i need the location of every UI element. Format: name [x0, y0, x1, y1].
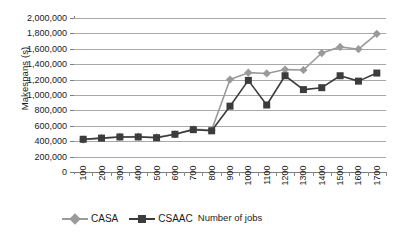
data-point-marker-diamond	[336, 43, 344, 51]
data-point-marker-diamond	[263, 69, 271, 77]
y-axis-tick-labels: 0200,000400,000600,000800,0001,000,0001,…	[0, 14, 67, 172]
x-axis-tick-label: 1100	[262, 166, 271, 200]
legend-item-casa[interactable]: CASA	[62, 213, 118, 224]
x-axis-tick-mark	[221, 172, 222, 176]
y-axis-tick-mark	[70, 126, 74, 127]
y-axis-tick-mark	[70, 110, 74, 111]
data-point-marker-square	[318, 84, 325, 91]
data-point-marker-square	[190, 126, 197, 133]
y-axis-tick-label: 1,800,000	[0, 29, 67, 38]
data-point-marker-square	[153, 134, 160, 141]
legend-marker-square	[138, 215, 146, 223]
data-point-marker-square	[245, 77, 252, 84]
data-point-marker-square	[282, 72, 289, 79]
legend-label: CASA	[91, 214, 118, 224]
x-axis-tick-label: 1200	[281, 166, 290, 200]
y-axis-tick-mark	[70, 64, 74, 65]
chart-legend: CASACSAAC	[62, 213, 193, 224]
data-point-marker-square	[98, 135, 105, 142]
x-axis-tick-label: 300	[115, 166, 124, 200]
data-point-marker-square	[208, 127, 215, 134]
x-axis-tick-label: 100	[79, 166, 88, 200]
legend-swatch	[129, 213, 155, 224]
data-point-marker-diamond	[244, 69, 252, 77]
x-axis-tick-label: 1300	[299, 166, 308, 200]
x-axis-tick-mark	[166, 172, 167, 176]
x-axis-tick-mark	[294, 172, 295, 176]
data-point-marker-square	[337, 72, 344, 79]
y-axis-tick-label: 200,000	[0, 152, 67, 161]
data-point-marker-square	[227, 103, 234, 110]
legend-label: CSAAC	[158, 214, 192, 224]
y-axis-tick-mark	[70, 80, 74, 81]
y-axis-tick-mark	[70, 95, 74, 96]
chart-container: Makespans (s) 0200,000400,000600,000800,…	[0, 0, 394, 237]
y-axis-tick-label: 800,000	[0, 106, 67, 115]
x-axis-tick-mark	[92, 172, 93, 176]
y-axis-tick-label: 1,400,000	[0, 60, 67, 69]
data-point-marker-square	[135, 133, 142, 140]
x-axis-tick-label: 1600	[354, 166, 363, 200]
x-axis-tick-label: 600	[170, 166, 179, 200]
x-axis-tick-mark	[276, 172, 277, 176]
y-axis-tick-label: 0	[0, 168, 67, 177]
y-axis-tick-mark	[70, 141, 74, 142]
x-axis-tick-mark	[184, 172, 185, 176]
y-axis-tick-mark	[70, 18, 74, 19]
x-axis-tick-label: 900	[226, 166, 235, 200]
x-axis-tick-label: 400	[134, 166, 143, 200]
x-axis-tick-label: 500	[152, 166, 161, 200]
y-axis-tick-mark	[70, 49, 74, 50]
x-axis-tick-labels: 1002003004005006007008009001000110012001…	[74, 178, 386, 208]
y-axis-tick-mark	[70, 172, 74, 173]
y-axis-tick-label: 1,600,000	[0, 44, 67, 53]
x-axis-tick-mark	[202, 172, 203, 176]
data-point-marker-square	[355, 78, 362, 85]
y-axis-tick-label: 2,000,000	[0, 14, 67, 23]
x-axis-tick-label: 1400	[317, 166, 326, 200]
y-axis-tick-label: 400,000	[0, 137, 67, 146]
x-axis-tick-mark	[258, 172, 259, 176]
x-axis-tick-mark	[147, 172, 148, 176]
data-point-marker-square	[300, 86, 307, 93]
y-axis-tick-mark	[70, 157, 74, 158]
x-axis-tick-mark	[111, 172, 112, 176]
x-axis-tick-label: 1500	[336, 166, 345, 200]
legend-marker-diamond	[69, 213, 80, 224]
y-axis-tick-label: 600,000	[0, 121, 67, 130]
legend-item-csaac[interactable]: CSAAC	[129, 213, 192, 224]
x-axis-tick-label: 200	[97, 166, 106, 200]
data-point-marker-square	[116, 133, 123, 140]
y-axis-tick-label: 1,200,000	[0, 75, 67, 84]
x-axis-tick-mark	[239, 172, 240, 176]
x-axis-tick-mark	[368, 172, 369, 176]
y-axis-tick-mark	[70, 33, 74, 34]
series-casa	[79, 30, 381, 144]
x-axis-tick-label: 1700	[372, 166, 381, 200]
data-point-marker-square	[171, 131, 178, 138]
x-axis-tick-mark	[386, 172, 387, 176]
x-axis-tick-mark	[349, 172, 350, 176]
data-point-marker-diamond	[226, 76, 234, 84]
data-point-marker-square	[263, 102, 270, 109]
x-axis-tick-label: 700	[189, 166, 198, 200]
data-point-marker-square	[373, 70, 380, 77]
x-axis-tick-mark	[313, 172, 314, 176]
x-axis-tick-mark	[129, 172, 130, 176]
legend-swatch	[62, 213, 88, 224]
plot-area	[74, 18, 386, 172]
y-axis-tick-label: 1,000,000	[0, 91, 67, 100]
data-point-marker-square	[80, 136, 87, 143]
x-axis-tick-label: 800	[207, 166, 216, 200]
x-axis-tick-mark	[331, 172, 332, 176]
series-line	[83, 34, 377, 140]
x-axis-tick-label: 1000	[244, 166, 253, 200]
series-layer	[74, 18, 386, 172]
